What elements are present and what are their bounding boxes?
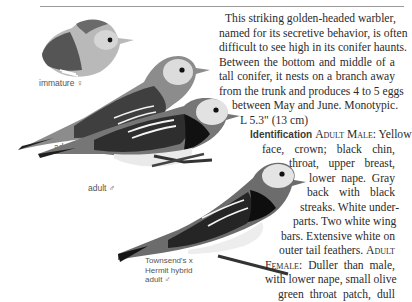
identification-heading: Identification — [250, 129, 312, 140]
id-line: bars. Extensive white on — [281, 230, 395, 245]
id-line: face, crown; black chin, — [262, 143, 395, 158]
text-line: This striking golden-headed warbler, — [225, 12, 395, 27]
female-line: Female: Duller than male, — [265, 259, 395, 274]
id-line: parts. Two white wing — [293, 215, 395, 230]
female-line: green throat patch, dull — [278, 288, 395, 302]
id-line: lower nape. Gray — [309, 172, 395, 187]
text-line: difficult to see high in its conifer hau… — [219, 41, 395, 56]
label-hybrid-line1: Townsend's x — [145, 256, 193, 266]
text-line: tall conifer, it nests on a branch away — [219, 70, 395, 85]
female-label: Female: — [265, 259, 302, 272]
text-line: between May and June. Monotypic. — [232, 99, 395, 114]
female-text: Duller than male, — [308, 259, 395, 272]
id-line-female-start: outer tail feathers. Adult — [274, 244, 395, 259]
id-line: throat, upper breast, — [289, 157, 395, 172]
top-rule — [40, 6, 404, 7]
text-line: Between the bottom and middle of a — [219, 56, 395, 71]
label-adult-male: adult ♂ — [88, 183, 115, 193]
identification-line: Identification Adult Male: Yellow — [250, 128, 395, 143]
label-hybrid: Townsend's x Hermit hybrid adult ♂ — [145, 256, 193, 285]
text-line: named for its secretive behavior, is oft… — [219, 27, 395, 42]
adult-male-label: Adult Male: — [315, 128, 376, 141]
text-line: from the trunk and produces 4 to 5 eggs — [219, 85, 395, 100]
label-hybrid-line3: adult ♂ — [145, 275, 193, 285]
text-line-length: L 5.3" (13 cm) — [240, 114, 308, 129]
adult-label: Adult — [366, 244, 395, 257]
id-line: streaks. White under- — [300, 201, 395, 216]
female-line: with lower nape, small olive — [265, 273, 395, 288]
id-line: back with black — [307, 186, 395, 201]
id-text: Yellow — [379, 128, 412, 141]
id-text: outer tail feathers. — [279, 244, 363, 257]
label-hybrid-line2: Hermit hybrid — [145, 266, 193, 276]
